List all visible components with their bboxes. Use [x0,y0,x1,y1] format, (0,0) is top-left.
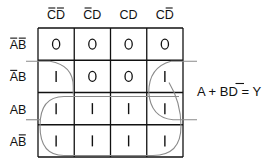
column-header-0: CD [47,8,65,22]
cell-value-0 [89,71,96,81]
grouping-loops [26,61,197,155]
cell-value-0 [125,71,132,81]
column-header-0-text: CD [47,8,65,22]
row-header-2-text: AB [10,103,27,117]
kmap-grid [38,28,183,157]
cell-value-0 [161,39,168,49]
row-header-0-text: AB [10,38,27,52]
row-header-0: AB [10,38,27,52]
equation-part: = Y [238,84,262,99]
boolean-equation: A + BD = Y [197,84,261,99]
column-header-2: CD [120,8,138,22]
column-header-1-text: CD [83,8,101,22]
row-header-3: AB [10,135,27,149]
loop-bd-left-top [26,61,73,94]
row-header-3-text: AB [10,135,27,149]
row-header-1: AB [10,70,27,84]
row-header-1-text: AB [10,70,27,84]
column-header-2-text: CD [120,8,138,22]
cell-value-0 [89,39,96,49]
column-header-3: CD [156,8,174,22]
column-header-1: CD [83,8,101,22]
equation-negated-term: D [228,84,237,99]
row-header-2: AB [10,103,27,117]
equation-part: A + B [197,84,228,99]
equation-text: A + BD = Y [197,84,261,99]
karnaugh-map: CDCDCDCD ABABABAB A + BD = Y [0,0,268,164]
row-headers: ABABABAB [10,38,27,149]
cell-value-0 [125,39,132,49]
column-header-3-text: CD [156,8,174,22]
cell-value-0 [53,39,60,49]
column-headers: CDCDCDCD [47,8,174,22]
